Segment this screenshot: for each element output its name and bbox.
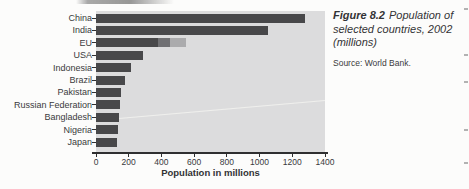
x-tick-label-1200: 1200: [277, 157, 307, 167]
category-label-russian-federation: Russian Federation: [0, 99, 92, 111]
bar-segment: [96, 113, 119, 122]
category-label-india: India: [0, 24, 92, 36]
figure-label: Figure 8.2: [333, 9, 385, 21]
scan-edge-artifact: [464, 81, 468, 83]
figure-page: ChinaIndiaEUUSAIndonesiaBrazilPakistanRu…: [0, 0, 469, 189]
category-label-bangladesh: Bangladesh: [0, 111, 92, 123]
category-label-eu: EU: [0, 37, 92, 49]
category-label-usa: USA: [0, 49, 92, 61]
bar-segment: [96, 38, 158, 47]
category-label-brazil: Brazil: [0, 74, 92, 86]
category-label-pakistan: Pakistan: [0, 86, 92, 98]
category-label-china: China: [0, 12, 92, 24]
x-axis-title: Population in millions: [96, 167, 325, 178]
bar-japan: [96, 138, 117, 147]
x-tick-label-800: 800: [212, 157, 242, 167]
bar-india: [96, 26, 268, 35]
bar-russian-federation: [96, 100, 120, 109]
bar-segment: [96, 100, 120, 109]
scan-edge-artifact: [464, 8, 468, 10]
scan-edge-artifact: [464, 162, 468, 164]
bar-pakistan: [96, 88, 121, 97]
bar-segment: [96, 26, 268, 35]
plot-area: [96, 11, 325, 152]
bar-usa: [96, 51, 143, 60]
figure-source: Source: World Bank.: [333, 58, 467, 68]
figure-caption: Figure 8.2Population of selected countri…: [333, 9, 467, 68]
bar-bangladesh: [96, 113, 119, 122]
x-tick-label-600: 600: [179, 157, 209, 167]
bar-segment: [96, 51, 143, 60]
bar-segment: [96, 125, 118, 134]
bar-segment: [96, 138, 117, 147]
x-tick-label-200: 200: [114, 157, 144, 167]
y-axis-labels: ChinaIndiaEUUSAIndonesiaBrazilPakistanRu…: [0, 11, 92, 152]
scan-edge-artifact: [464, 54, 468, 56]
category-label-indonesia: Indonesia: [0, 62, 92, 74]
bar-eu: [96, 38, 186, 47]
x-tick-label-0: 0: [81, 157, 111, 167]
bar-segment: [96, 14, 305, 23]
cropped-text-artifact: [76, 0, 174, 4]
x-tick-label-1400: 1400: [310, 157, 340, 167]
figure-caption-text: Figure 8.2Population of selected countri…: [333, 9, 467, 50]
bar-china: [96, 14, 305, 23]
bar-indonesia: [96, 63, 131, 72]
bar-segment: [96, 76, 125, 85]
category-label-nigeria: Nigeria: [0, 124, 92, 136]
category-label-japan: Japan: [0, 136, 92, 148]
bar-segment: [158, 38, 170, 47]
bar-segment: [170, 38, 186, 47]
bar-brazil: [96, 76, 125, 85]
scan-edge-artifact: [464, 129, 468, 131]
x-tick-label-1000: 1000: [245, 157, 275, 167]
x-tick-label-400: 400: [146, 157, 176, 167]
bar-nigeria: [96, 125, 118, 134]
bar-segment: [96, 63, 131, 72]
bar-segment: [96, 88, 121, 97]
